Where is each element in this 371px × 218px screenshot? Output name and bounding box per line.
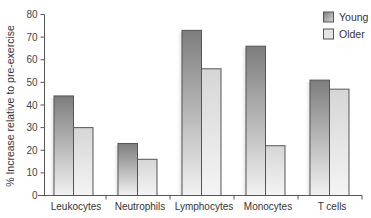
x-axis-labels: LeukocytesNeutrophilsLymphocytesMonocyte… bbox=[51, 201, 347, 212]
y-tick-label: 10 bbox=[26, 167, 38, 178]
y-tick-label: 40 bbox=[26, 100, 38, 111]
y-axis-title: % Increase relative to pre-exercise bbox=[4, 25, 16, 187]
legend-item-older: Older bbox=[324, 28, 366, 40]
legend: YoungOlder bbox=[324, 11, 369, 40]
bars bbox=[48, 30, 349, 195]
bar-group-lymphocytes bbox=[176, 30, 221, 195]
y-tick-label: 60 bbox=[26, 54, 38, 65]
y-axis-label-group: % Increase relative to pre-exercise bbox=[4, 25, 16, 187]
bar-young bbox=[182, 30, 202, 195]
bar-shadow bbox=[304, 82, 310, 195]
bar-shadow bbox=[240, 48, 246, 195]
bar-young bbox=[54, 96, 74, 196]
bar-older bbox=[74, 128, 94, 196]
y-tick-label: 20 bbox=[26, 145, 38, 156]
bar-older bbox=[266, 146, 286, 196]
legend-item-young: Young bbox=[324, 11, 369, 23]
bar-young bbox=[246, 46, 266, 195]
bar-group-leukocytes bbox=[48, 96, 93, 196]
bar-young bbox=[118, 143, 138, 195]
bar-older bbox=[330, 89, 350, 195]
x-category-label: Neutrophils bbox=[115, 201, 166, 212]
y-tick-label: 0 bbox=[32, 190, 38, 201]
legend-swatch bbox=[324, 29, 334, 39]
bar-shadow bbox=[112, 145, 118, 195]
bar-group-neutrophils bbox=[112, 143, 157, 195]
bar-group-t-cells bbox=[304, 80, 349, 195]
legend-swatch bbox=[324, 12, 334, 22]
x-category-label: Lymphocytes bbox=[175, 201, 234, 212]
bar-shadow bbox=[48, 98, 54, 196]
bar-shadow bbox=[176, 32, 182, 195]
legend-label: Young bbox=[339, 11, 369, 23]
legend-label: Older bbox=[339, 28, 365, 40]
y-tick-label: 80 bbox=[26, 9, 38, 20]
bar-chart: % Increase relative to pre-exercise 0102… bbox=[0, 0, 371, 218]
y-tick-label: 70 bbox=[26, 32, 38, 43]
y-tick-label: 30 bbox=[26, 122, 38, 133]
bar-young bbox=[310, 80, 330, 195]
y-tick-label: 50 bbox=[26, 77, 38, 88]
x-category-label: Monocytes bbox=[244, 201, 292, 212]
x-category-label: Leukocytes bbox=[51, 201, 102, 212]
bar-older bbox=[202, 69, 222, 196]
bar-older bbox=[138, 159, 158, 195]
bar-group-monocytes bbox=[240, 46, 285, 195]
x-category-label: T cells bbox=[318, 201, 347, 212]
